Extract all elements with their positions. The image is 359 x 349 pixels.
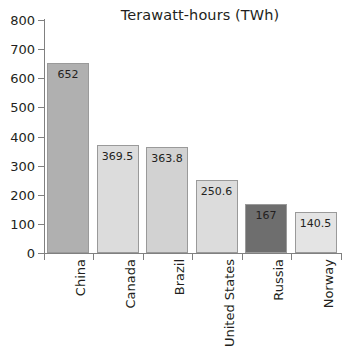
category-label-norway: Norway bbox=[322, 259, 335, 308]
y-axis-tick bbox=[38, 78, 45, 79]
x-axis-line bbox=[44, 253, 342, 254]
y-axis-tick-label: 600 bbox=[0, 72, 35, 85]
y-axis-tick-label: 0 bbox=[0, 247, 35, 260]
y-axis-tick-label: 700 bbox=[0, 43, 35, 56]
category-label-brazil: Brazil bbox=[173, 259, 186, 295]
category-label-canada: Canada bbox=[124, 259, 137, 308]
y-axis-tick bbox=[38, 49, 45, 50]
x-axis-tick bbox=[143, 254, 144, 260]
y-axis-tick-label: 400 bbox=[0, 131, 35, 144]
y-axis-tick-label: 300 bbox=[0, 160, 35, 173]
y-axis-tick bbox=[38, 224, 45, 225]
bar-brazil: 363.8 bbox=[146, 147, 188, 253]
bar-value-label: 363.8 bbox=[147, 153, 187, 164]
y-axis-tick-label: 100 bbox=[0, 218, 35, 231]
chart-title: Terawatt-hours (TWh) bbox=[80, 7, 320, 23]
category-label-russia: Russia bbox=[272, 259, 285, 301]
y-axis-tick-label: 200 bbox=[0, 189, 35, 202]
bar-china: 652 bbox=[47, 63, 89, 253]
y-axis-tick-label: 800 bbox=[0, 14, 35, 27]
bar-value-label: 167 bbox=[246, 210, 286, 221]
bar-value-label: 652 bbox=[48, 69, 88, 80]
x-axis-tick bbox=[341, 254, 342, 260]
y-axis-tick-label: 500 bbox=[0, 101, 35, 114]
x-axis-tick-origin bbox=[44, 254, 45, 260]
y-axis-tick bbox=[38, 107, 45, 108]
x-axis-tick bbox=[291, 254, 292, 260]
category-label-united-states: United States bbox=[223, 259, 236, 347]
x-axis-tick bbox=[242, 254, 243, 260]
y-axis-tick bbox=[38, 195, 45, 196]
bar-chart: Terawatt-hours (TWh) 8007006005004003002… bbox=[0, 0, 359, 349]
category-label-china: China bbox=[74, 259, 87, 296]
y-axis-tick bbox=[38, 20, 45, 21]
x-axis-tick bbox=[192, 254, 193, 260]
bar-canada: 369.5 bbox=[97, 145, 139, 253]
bar-value-label: 250.6 bbox=[197, 186, 237, 197]
bar-united-states: 250.6 bbox=[196, 180, 238, 253]
bar-value-label: 369.5 bbox=[98, 151, 138, 162]
y-axis-tick bbox=[38, 166, 45, 167]
bar-norway: 140.5 bbox=[295, 212, 337, 253]
y-axis-tick bbox=[38, 137, 45, 138]
bar-value-label: 140.5 bbox=[296, 218, 336, 229]
bar-russia: 167 bbox=[245, 204, 287, 253]
x-axis-tick bbox=[93, 254, 94, 260]
